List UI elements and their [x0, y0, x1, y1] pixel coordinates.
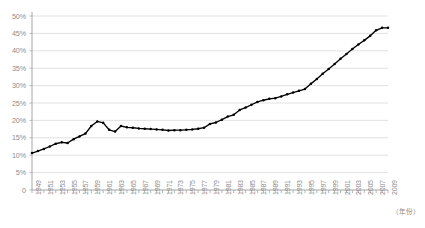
data-point-markers [31, 27, 390, 155]
x-axis-tick-label: 1997 [320, 180, 327, 195]
x-axis-tick-label: 2001 [344, 180, 351, 195]
y-axis-tick-label: 30% [0, 81, 26, 90]
gridlines-group [32, 16, 388, 173]
y-axis-tick-label: 45% [0, 29, 26, 38]
x-axis-tick-label: 1967 [142, 180, 149, 195]
x-axis-tick-label: 1973 [177, 180, 184, 195]
y-axis-tick-label: 10% [0, 151, 26, 160]
urbanization-line-chart: 05%10%15%20%25%30%35%40%45%50% 194919511… [0, 0, 425, 228]
x-axis-tick-label: 1999 [332, 180, 339, 195]
x-axis-tick-label: 1975 [189, 180, 196, 195]
x-axis-tick-label: 1981 [225, 180, 232, 195]
x-axis-tick-label: 1957 [82, 180, 89, 195]
y-axis-tick-label: 40% [0, 46, 26, 55]
x-axis-tick-label: 1991 [284, 180, 291, 195]
y-axis-tick-label: 0 [0, 186, 26, 195]
y-axis-tick-label: 15% [0, 133, 26, 142]
x-axis-tick-label: 1969 [154, 180, 161, 195]
x-axis-tick-label: 1985 [249, 180, 256, 195]
x-axis-tick-label: 1965 [130, 180, 137, 195]
x-axis-tick-label: 1955 [71, 180, 78, 195]
x-axis-tick-label: 1959 [94, 180, 101, 195]
x-axis-tick-label: 2003 [355, 180, 362, 195]
x-axis-tick-label: 1953 [59, 180, 66, 195]
x-axis-tick-label: 1977 [201, 180, 208, 195]
x-axis-tick-label: 1983 [237, 180, 244, 195]
x-axis-tick-label: 1971 [166, 180, 173, 195]
x-axis-tick-label: 1993 [296, 180, 303, 195]
x-axis-tick-label: 1963 [118, 180, 125, 195]
x-axis-tick-label: 2005 [367, 180, 374, 195]
x-axis-title: （年份） [392, 206, 420, 216]
x-axis-tick-label: 2009 [391, 180, 398, 195]
x-axis-tick-label: 1987 [260, 180, 267, 195]
x-axis-tick-label: 1961 [106, 180, 113, 195]
x-axis-tick-label: 1979 [213, 180, 220, 195]
x-axis-tick-label: 1951 [47, 180, 54, 195]
y-axis-tick-label: 25% [0, 99, 26, 108]
y-axis-tick-label: 35% [0, 64, 26, 73]
x-axis-tick-label: 1989 [272, 180, 279, 195]
y-axis-tick-label: 50% [0, 12, 26, 21]
y-axis-tick-label: 20% [0, 116, 26, 125]
y-axis-tick-label: 5% [0, 168, 26, 177]
x-axis-tick-label: 2007 [379, 180, 386, 195]
x-axis-tick-label: 1995 [308, 180, 315, 195]
x-axis-tick-label: 1949 [35, 180, 42, 195]
